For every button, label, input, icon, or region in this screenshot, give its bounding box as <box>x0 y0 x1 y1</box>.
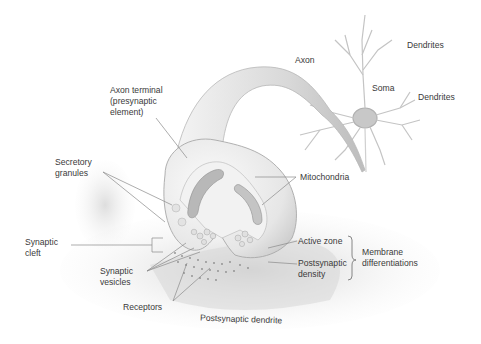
label-postsynaptic-density: Postsynaptic density <box>298 258 347 280</box>
synapse-diagram: Axon Dendrites Soma Dendrites Axon termi… <box>0 0 481 344</box>
label-axon: Axon <box>295 55 315 66</box>
label-secretory-granules: Secretory granules <box>55 157 92 179</box>
label-axon-terminal: Axon terminal (presynaptic element) <box>110 85 163 118</box>
axon-terminal-shape <box>164 139 297 258</box>
label-synaptic-cleft: Synaptic cleft <box>25 237 58 259</box>
label-soma: Soma <box>372 83 394 94</box>
label-dendrites-right: Dendrites <box>418 92 455 103</box>
label-active-zone: Active zone <box>298 236 342 247</box>
label-mitochondria: Mitochondria <box>300 172 349 183</box>
label-dendrites-top: Dendrites <box>407 40 444 51</box>
label-membrane-differentiations: Membrane differentiations <box>362 247 418 269</box>
label-receptors: Receptors <box>123 302 162 313</box>
label-synaptic-vesicles: Synaptic vesicles <box>100 266 133 288</box>
